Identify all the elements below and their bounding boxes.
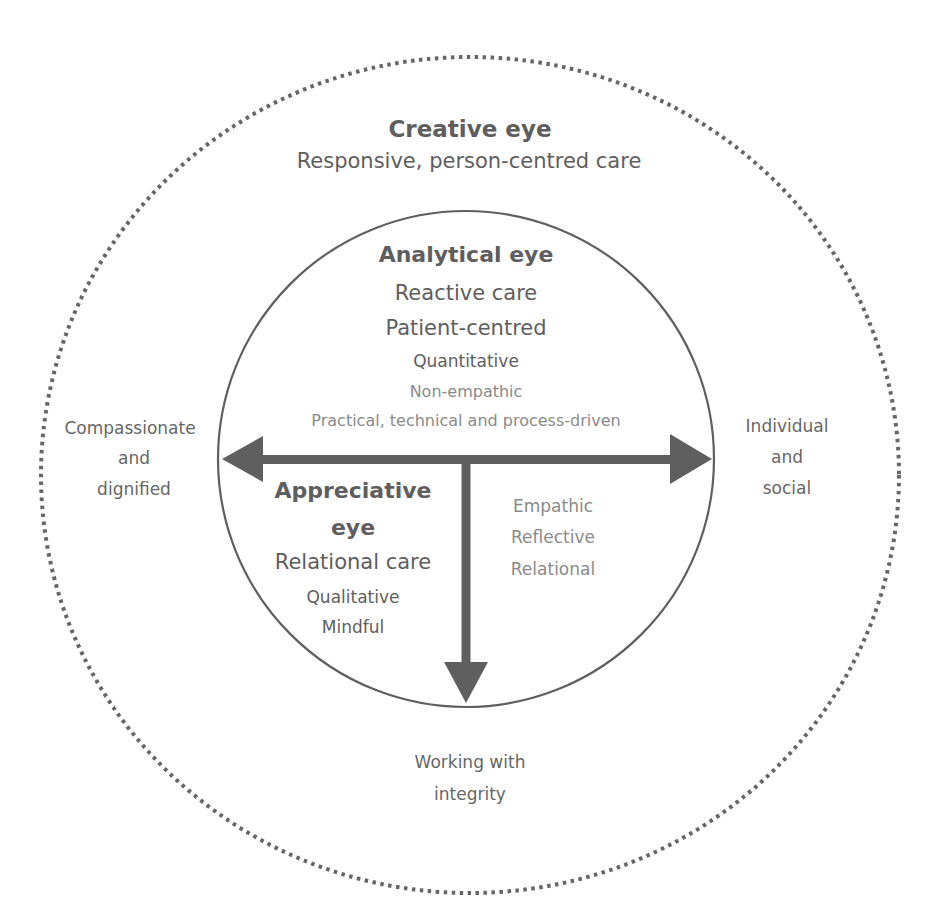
bottom-label-line1: Working with <box>415 754 526 771</box>
arrow-left-icon <box>222 436 263 482</box>
left-label-line1: Compassionate <box>64 420 195 437</box>
right-quadrant-relational: Relational <box>511 561 595 578</box>
vertical-arrow-shaft <box>462 459 471 664</box>
analytical-eye-title: Analytical eye <box>379 244 554 266</box>
appreciative-line-relational-care: Relational care <box>275 552 431 573</box>
creative-eye-title: Creative eye <box>388 118 551 141</box>
appreciative-line-qualitative: Qualitative <box>306 589 399 606</box>
arrow-down-icon <box>444 662 488 703</box>
left-label-line2: and <box>118 450 150 467</box>
appreciative-eye-title-line1: Appreciative <box>274 480 431 502</box>
right-quadrant-empathic: Empathic <box>513 498 593 515</box>
appreciative-eye-title-line2: eye <box>331 517 375 539</box>
analytical-line-reactive-care: Reactive care <box>395 283 538 304</box>
appreciative-line-mindful: Mindful <box>322 619 384 636</box>
analytical-line-patient-centred: Patient-centred <box>385 318 546 339</box>
arrow-right-icon <box>670 434 712 484</box>
creative-eye-subtitle: Responsive, person-centred care <box>297 151 642 172</box>
three-eyes-diagram: Creative eye Responsive, person-centred … <box>0 0 929 922</box>
analytical-line-practical: Practical, technical and process-driven <box>311 413 620 429</box>
analytical-line-quantitative: Quantitative <box>413 353 519 370</box>
analytical-line-non-empathic: Non-empathic <box>410 384 523 400</box>
right-label-line3: social <box>763 480 811 497</box>
right-label-line1: Individual <box>746 418 829 435</box>
right-quadrant-reflective: Reflective <box>511 529 595 546</box>
left-label-line3: dignified <box>97 481 171 498</box>
bottom-label-line2: integrity <box>434 786 506 803</box>
right-label-line2: and <box>771 449 803 466</box>
